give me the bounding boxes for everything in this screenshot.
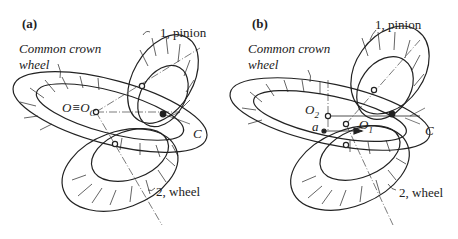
- panel-a-point-c: C: [193, 127, 202, 140]
- panel-b-point-c: C: [425, 124, 434, 137]
- panel-b-crown-label-line2: wheel: [248, 58, 278, 71]
- panel-b-crown-label-line1: Common crown: [248, 42, 330, 55]
- panel-b-point-o2: O2: [305, 103, 319, 120]
- panel-b-pinion-label: 1, pinion: [375, 18, 421, 31]
- panel-b-point-o1: O1: [359, 118, 373, 135]
- panel-b-wheel-label: 2, wheel: [399, 186, 443, 199]
- gear-diagram: (a) 1, pinion Common crown wheel O≡OC C …: [0, 0, 458, 239]
- panel-a-point-o: O≡OC: [62, 101, 96, 118]
- panel-a-crown-label-line1: Common crown: [19, 42, 101, 55]
- panel-b-point-a: a: [312, 120, 319, 133]
- panel-a-crown-label-line2: wheel: [19, 58, 49, 71]
- panel-b-tag: (b): [252, 17, 268, 30]
- pinion-label: 1, pinion: [160, 25, 206, 40]
- point-o1-label: O: [359, 117, 368, 132]
- point-o2-label: O: [305, 102, 314, 117]
- point-o1-subscript: 1: [368, 125, 373, 135]
- point-o-label: O≡O: [62, 100, 90, 115]
- panel-a-tag: (a): [22, 17, 37, 30]
- panel-a-pinion-label: 1, pinion: [160, 26, 206, 39]
- point-o-subscript: C: [90, 108, 96, 118]
- diagram-drawing: [0, 0, 458, 239]
- panel-a-wheel-label: 2, wheel: [156, 185, 200, 198]
